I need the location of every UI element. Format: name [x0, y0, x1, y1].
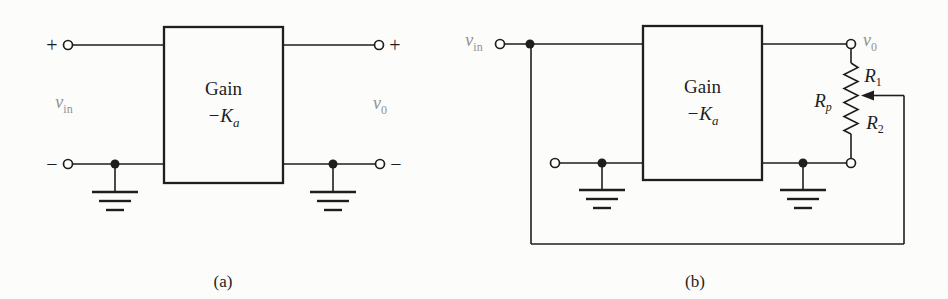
output-minus-sign-a: −: [390, 154, 401, 174]
caption-b: (b): [685, 273, 705, 290]
terminal-input-minus-a: [64, 160, 73, 169]
junction-dot-b-input: [526, 40, 535, 49]
terminal-input-plus-a: [64, 41, 73, 50]
input-voltage-label-a: vin: [55, 93, 72, 115]
gain-label-a: Gain: [205, 75, 242, 102]
terminal-input-b: [496, 40, 505, 49]
resistor-r1-label: R1: [864, 66, 882, 89]
ground-icon-a-left: [92, 164, 138, 210]
gain-label-b: Gain: [684, 73, 721, 100]
gain-value-a: −Ka: [208, 102, 240, 136]
terminal-input-lower-b: [551, 159, 560, 168]
output-voltage-label-a: v0: [373, 94, 387, 116]
caption-a: (a): [214, 273, 233, 290]
input-plus-sign-a: +: [46, 35, 57, 55]
terminal-output-minus-a: [376, 160, 385, 169]
ground-icon-a-right: [310, 164, 356, 210]
potentiometer-rp-label: Rp: [814, 91, 832, 114]
resistor-zigzag: [844, 63, 858, 134]
terminal-output-b: [847, 40, 856, 49]
input-minus-sign-a: −: [46, 154, 57, 174]
terminal-output-plus-a: [375, 41, 384, 50]
terminal-output-lower-b: [847, 159, 856, 168]
ground-icon-b-right: [780, 163, 826, 208]
input-voltage-label-b: vin: [465, 31, 482, 53]
gain-value-b: −Ka: [687, 100, 719, 134]
gain-block-text-a: Gain −Ka: [164, 27, 283, 183]
ground-icon-b-left: [579, 163, 625, 208]
gain-block-text-b: Gain −Ka: [643, 26, 762, 180]
output-plus-sign-a: +: [389, 35, 400, 55]
resistor-r2-label: R2: [866, 113, 884, 136]
output-voltage-label-b: v0: [863, 31, 877, 53]
figure-amplifier-circuits: + − + − vin v0 Gain −Ka (a) vin v0 Gain …: [0, 0, 948, 299]
